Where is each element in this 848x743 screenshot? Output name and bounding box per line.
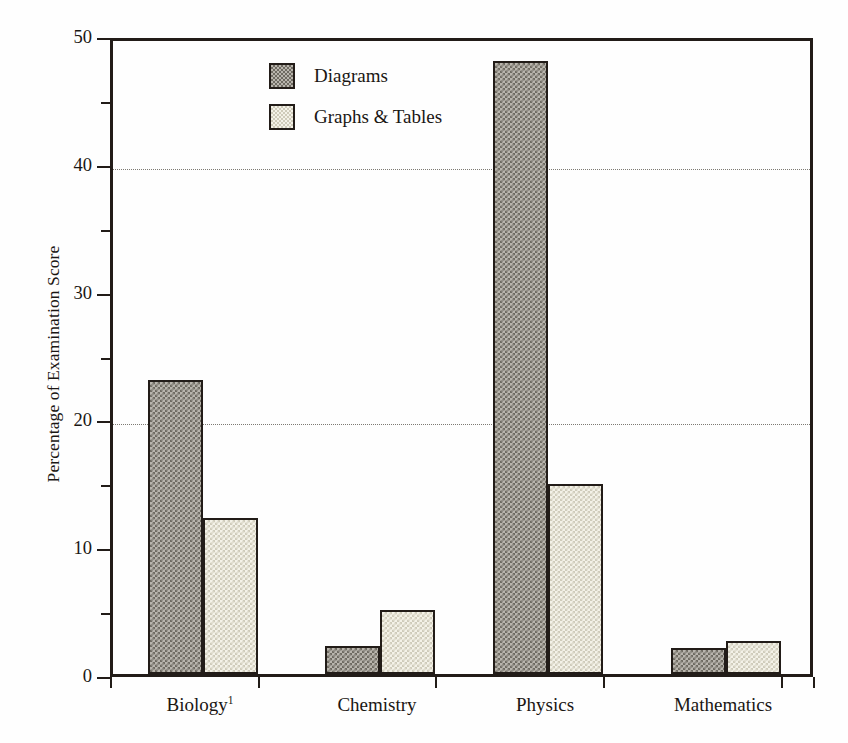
x-tick-4 <box>781 677 783 688</box>
x-tick-3 <box>603 677 605 688</box>
bar-graphs-tables-chemistry <box>380 610 435 674</box>
bar-diagrams-mathematics <box>671 648 726 674</box>
bars-layer <box>113 41 810 674</box>
y-minor-tick-5 <box>101 613 110 615</box>
x-tick-5 <box>813 677 815 688</box>
y-minor-tick-45 <box>101 102 110 104</box>
bar-graphs-tables-biology <box>203 518 258 674</box>
y-minor-tick-25 <box>101 358 110 360</box>
y-tick-20 <box>97 421 110 423</box>
y-tick-50 <box>97 38 110 40</box>
bar-graphs-tables-mathematics <box>726 641 781 674</box>
y-axis-title: Percentage of Examination Score <box>43 154 67 574</box>
y-tick-label-20: 20 <box>36 411 92 430</box>
y-tick-label-30: 30 <box>36 284 92 303</box>
y-tick-40 <box>97 166 110 168</box>
bar-diagrams-chemistry <box>325 646 380 674</box>
y-tick-30 <box>97 294 110 296</box>
bar-diagrams-physics <box>493 61 548 674</box>
x-tick-1 <box>258 677 260 688</box>
x-tick-2 <box>435 677 437 688</box>
footnote-marker: 1 <box>228 694 234 706</box>
x-axis-label-biology: Biology1 <box>100 694 300 716</box>
x-tick-0 <box>110 677 112 688</box>
x-axis-label-mathematics: Mathematics <box>623 694 823 716</box>
y-tick-label-0: 0 <box>36 667 92 686</box>
x-axis-label-physics: Physics <box>445 694 645 716</box>
y-tick-0 <box>97 677 110 679</box>
bar-graphs-tables-physics <box>548 484 603 674</box>
bar-diagrams-biology <box>148 380 203 674</box>
y-tick-10 <box>97 549 110 551</box>
plot-area: Diagrams Graphs & Tables <box>110 38 813 677</box>
bar-chart: Percentage of Examination Score Diagrams… <box>0 0 848 743</box>
y-tick-label-10: 10 <box>36 539 92 558</box>
y-tick-label-40: 40 <box>36 156 92 175</box>
y-tick-label-50: 50 <box>36 28 92 47</box>
y-minor-tick-35 <box>101 230 110 232</box>
y-minor-tick-15 <box>101 485 110 487</box>
